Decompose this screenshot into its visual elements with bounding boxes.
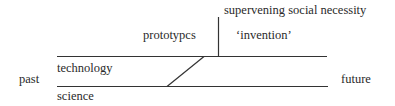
supervening-social-necessity-label: supervening social necessity xyxy=(224,4,366,17)
prototype-diagonal xyxy=(167,57,204,87)
science-label: science xyxy=(57,90,94,103)
future-label: future xyxy=(341,73,371,86)
prototypes-label: prototypcs xyxy=(143,29,196,42)
past-label: past xyxy=(19,73,39,86)
invention-label: ‘invention’ xyxy=(236,29,292,42)
technology-label: technology xyxy=(57,62,113,75)
